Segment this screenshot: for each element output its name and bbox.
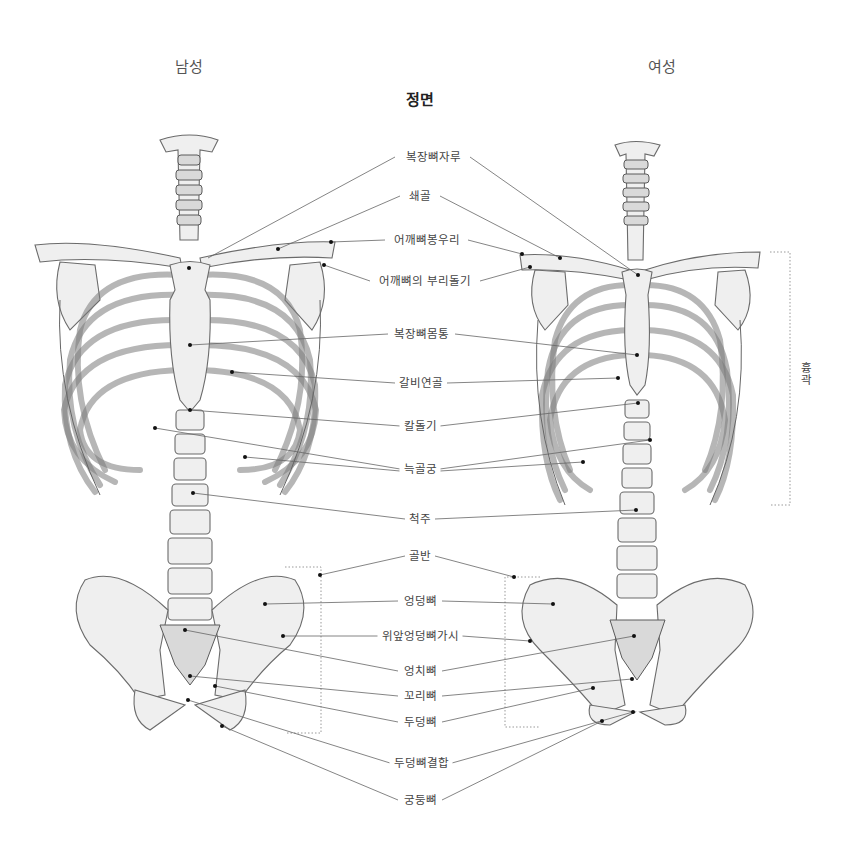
label-pelvis: 골반 [405, 549, 435, 563]
label-ischium: 궁둥뼈 [400, 793, 441, 807]
label-costal-cartilage: 갈비연골 [395, 376, 447, 390]
female-column-title: 여성 [648, 55, 676, 76]
label-pubis: 두덩뼈 [400, 715, 441, 729]
label-ilium: 엉덩뼈 [400, 594, 441, 608]
anatomy-diagram: 남성 여성 정면 복장뼈자루 쇄골 어깨뼈봉우리 어깨뼈의 부리돌기 복장뼈몸통… [0, 0, 841, 856]
label-xiphoid-process: 칼돌기 [400, 419, 441, 433]
label-anterior-superior-iliac-spine: 위앞엉덩뼈가시 [378, 629, 463, 643]
label-coracoid-process: 어깨뼈의 부리돌기 [375, 274, 475, 288]
male-column-title: 남성 [175, 55, 203, 76]
label-coccyx: 꼬리뼈 [400, 689, 441, 703]
label-spine: 척주 [405, 512, 435, 526]
label-sacrum: 엉치뼈 [400, 664, 441, 678]
label-sternum-body: 복장뼈몸통 [390, 327, 453, 341]
label-clavicle: 쇄골 [405, 189, 435, 203]
label-manubrium: 복장뼈자루 [402, 150, 465, 164]
view-title: 정면 [406, 88, 434, 109]
label-thorax: 흉곽 [797, 362, 813, 386]
label-pubic-symphysis: 두덩뼈결합 [390, 756, 453, 770]
female-skeleton [520, 142, 760, 726]
male-skeleton [35, 135, 335, 730]
label-costal-arch: 늑골궁 [400, 462, 441, 476]
thorax-bracket [770, 252, 790, 505]
label-acromion: 어깨뼈봉우리 [390, 233, 464, 247]
